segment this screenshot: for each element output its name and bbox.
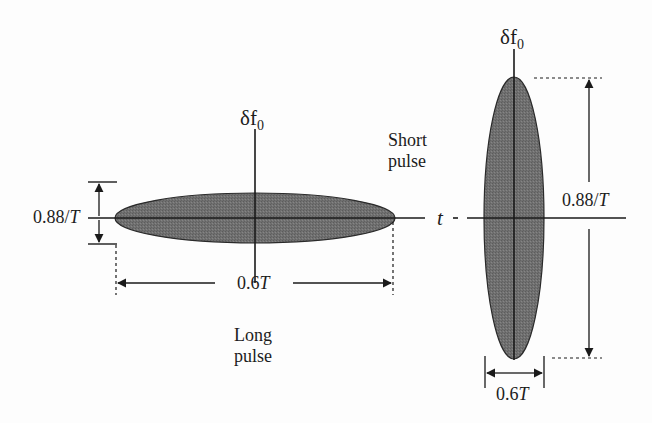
short-pulse-caption: Short pulse <box>388 130 427 172</box>
long-pulse-freq-extent-label: 0.88/T <box>33 208 80 226</box>
short-pulse-time-extent-label: 0.6T <box>496 385 529 403</box>
long-pulse-freq-axis-label: δf0 <box>240 108 264 133</box>
long-pulse-time-extent-label: 0.6T <box>237 274 270 292</box>
long-pulse-time-axis-label: t <box>437 208 443 229</box>
short-pulse-freq-axis-label: δf0 <box>500 27 524 52</box>
short-pulse-figure <box>467 49 626 388</box>
short-pulse-freq-extent-label: 0.88/T <box>562 191 609 209</box>
diagram-graphics <box>0 0 652 423</box>
diagram-canvas: δf0 0.88/T t 0.6T Long pulse δf0 Short p… <box>0 0 652 423</box>
long-pulse-caption: Long pulse <box>234 325 272 367</box>
